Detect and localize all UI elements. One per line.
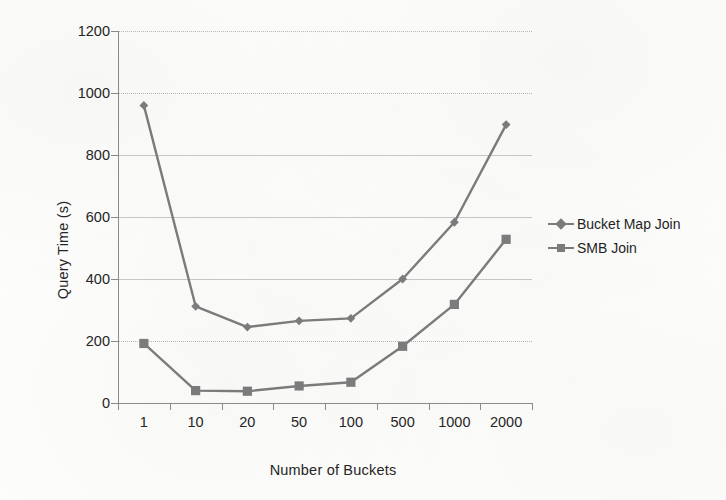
- legend-marker-square-icon: [548, 242, 574, 254]
- x-axis-title-text: Number of Buckets: [270, 462, 397, 478]
- x-axis-title: Number of Buckets: [0, 462, 726, 478]
- data-point-square-icon: [346, 378, 355, 387]
- chart-legend: Bucket Map Join SMB Join: [548, 212, 681, 260]
- series-bucket-map-join: [139, 101, 510, 331]
- data-point-diamond-icon: [295, 316, 304, 325]
- data-point-diamond-icon: [191, 302, 200, 311]
- data-point-square-icon: [243, 387, 252, 396]
- series-smb-join: [139, 235, 510, 396]
- legend-marker-diamond-icon: [548, 218, 574, 230]
- data-point-diamond-icon: [502, 120, 511, 129]
- data-point-square-icon: [502, 235, 511, 244]
- data-point-square-icon: [295, 381, 304, 390]
- legend-label-bucket-map-join: Bucket Map Join: [577, 217, 681, 231]
- legend-item-smb-join[interactable]: SMB Join: [548, 236, 681, 260]
- line-chart-figure: Query Time (s) 120010008006004002000 110…: [0, 0, 726, 500]
- series-line: [144, 239, 506, 391]
- legend-label-smb-join: SMB Join: [577, 241, 637, 255]
- legend-item-bucket-map-join[interactable]: Bucket Map Join: [548, 212, 681, 236]
- data-point-diamond-icon: [243, 323, 252, 332]
- data-point-square-icon: [398, 342, 407, 351]
- data-point-diamond-icon: [139, 101, 148, 110]
- data-point-square-icon: [191, 386, 200, 395]
- series-line: [144, 105, 506, 327]
- data-point-square-icon: [139, 339, 148, 348]
- data-point-square-icon: [450, 300, 459, 309]
